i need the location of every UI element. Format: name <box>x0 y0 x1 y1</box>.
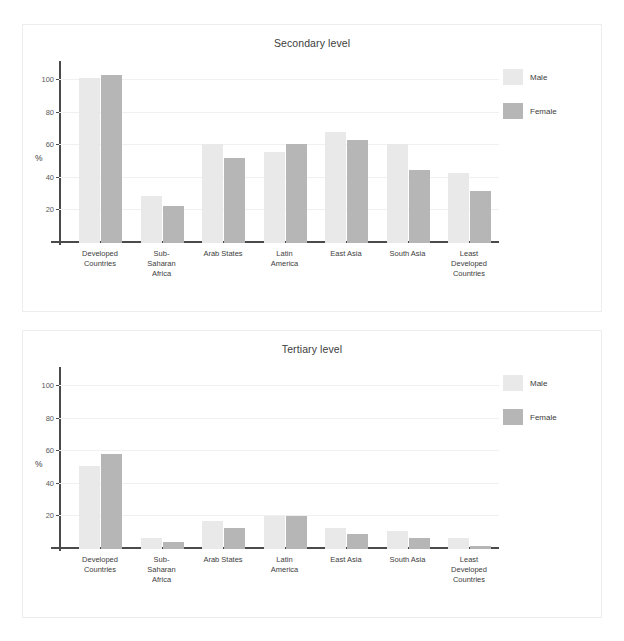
bar-male[interactable] <box>202 521 223 549</box>
gridline-60: 60 <box>59 144 499 145</box>
chart-title-secondary: Secondary level <box>23 37 601 49</box>
bar-female[interactable] <box>163 542 184 549</box>
y-tick-mark-20 <box>56 515 59 516</box>
bar-female[interactable] <box>347 534 368 549</box>
bar-male[interactable] <box>325 528 346 549</box>
x-category-label: LeastDevelopedCountries <box>427 555 511 585</box>
figure-root: Secondary level % 20406080100 DevelopedC… <box>0 0 624 641</box>
gridline-100: 100 <box>59 385 499 386</box>
y-tick-mark-40 <box>56 177 59 178</box>
gridline-60: 60 <box>59 450 499 451</box>
y-axis-line <box>59 367 61 551</box>
bar-female[interactable] <box>224 528 245 549</box>
y-tick-label-60: 60 <box>46 446 54 455</box>
legend-secondary: Male Female <box>503 69 583 137</box>
plot-area-secondary: 20406080100 DevelopedCountriesSub-Sahara… <box>59 67 499 257</box>
y-axis-line <box>59 61 61 245</box>
y-tick-mark-40 <box>56 483 59 484</box>
bar-female[interactable] <box>470 546 491 549</box>
y-tick-label-40: 40 <box>46 478 54 487</box>
gridline-80: 80 <box>59 418 499 419</box>
legend-swatch-female <box>503 103 523 119</box>
legend-row-female: Female <box>503 103 583 119</box>
y-tick-label-40: 40 <box>46 172 54 181</box>
y-tick-mark-100 <box>56 385 59 386</box>
bar-male[interactable] <box>202 144 223 243</box>
y-axis-title-secondary: % <box>35 153 43 163</box>
y-tick-mark-100 <box>56 79 59 80</box>
y-tick-label-20: 20 <box>46 205 54 214</box>
bar-male[interactable] <box>448 538 469 549</box>
bar-female[interactable] <box>409 170 430 243</box>
legend-label-male: Male <box>530 379 547 388</box>
legend-label-female: Female <box>530 413 557 422</box>
bar-female[interactable] <box>409 538 430 549</box>
y-tick-mark-80 <box>56 112 59 113</box>
bar-female[interactable] <box>347 140 368 243</box>
bar-male[interactable] <box>264 516 285 549</box>
bar-female[interactable] <box>470 191 491 243</box>
legend-label-female: Female <box>530 107 557 116</box>
gridline-80: 80 <box>59 112 499 113</box>
y-tick-mark-60 <box>56 450 59 451</box>
bar-female[interactable] <box>224 158 245 243</box>
bar-male[interactable] <box>387 144 408 243</box>
bar-male[interactable] <box>264 152 285 243</box>
plot-secondary: 20406080100 <box>59 67 499 243</box>
chart-panel-secondary: Secondary level % 20406080100 DevelopedC… <box>22 24 602 312</box>
plot-area-tertiary: 20406080100 DevelopedCountriesSub-Sahara… <box>59 373 499 563</box>
x-category-label: LeastDevelopedCountries <box>427 249 511 279</box>
bar-female[interactable] <box>286 516 307 549</box>
chart-panel-tertiary: Tertiary level % 20406080100 DevelopedCo… <box>22 330 602 618</box>
y-tick-label-100: 100 <box>41 75 54 84</box>
bar-male[interactable] <box>325 132 346 243</box>
y-tick-label-80: 80 <box>46 107 54 116</box>
bar-male[interactable] <box>79 78 100 243</box>
y-tick-label-20: 20 <box>46 511 54 520</box>
legend-row-male: Male <box>503 375 583 391</box>
legend-tertiary: Male Female <box>503 375 583 443</box>
chart-title-tertiary: Tertiary level <box>23 343 601 355</box>
bar-male[interactable] <box>79 466 100 549</box>
y-tick-mark-20 <box>56 209 59 210</box>
y-tick-mark-80 <box>56 418 59 419</box>
gridline-40: 40 <box>59 483 499 484</box>
y-tick-label-100: 100 <box>41 381 54 390</box>
bar-male[interactable] <box>387 531 408 549</box>
bar-male[interactable] <box>141 538 162 549</box>
y-tick-label-60: 60 <box>46 140 54 149</box>
bar-female[interactable] <box>101 75 122 243</box>
legend-label-male: Male <box>530 73 547 82</box>
bar-female[interactable] <box>163 206 184 243</box>
y-axis-title-tertiary: % <box>35 459 43 469</box>
legend-swatch-male <box>503 69 523 85</box>
legend-row-male: Male <box>503 69 583 85</box>
legend-row-female: Female <box>503 409 583 425</box>
legend-swatch-male <box>503 375 523 391</box>
bar-female[interactable] <box>101 454 122 549</box>
bar-female[interactable] <box>286 144 307 243</box>
legend-swatch-female <box>503 409 523 425</box>
gridline-100: 100 <box>59 79 499 80</box>
y-tick-mark-60 <box>56 144 59 145</box>
plot-tertiary: 20406080100 <box>59 373 499 549</box>
bar-male[interactable] <box>448 173 469 243</box>
bar-male[interactable] <box>141 196 162 243</box>
y-tick-label-80: 80 <box>46 413 54 422</box>
